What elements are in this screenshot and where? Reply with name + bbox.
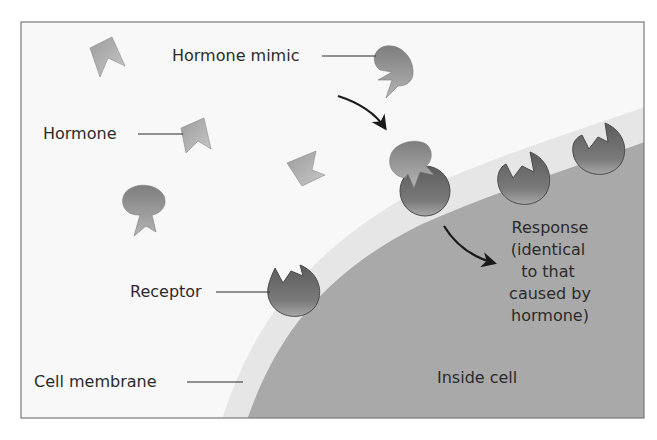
response-line: hormone) [511, 306, 589, 325]
response-line: (identical [511, 240, 586, 259]
response-line: caused by [509, 284, 591, 303]
receptor-icon [268, 265, 320, 316]
hormone-mimic-label: Hormone mimic [172, 46, 299, 65]
inside-cell-label: Inside cell [437, 368, 517, 387]
hormone-mimic-diagram: Hormone mimic Hormone Receptor Cell memb… [0, 0, 657, 440]
cell-membrane-label: Cell membrane [34, 372, 157, 391]
response-line: Response [512, 218, 589, 237]
response-line: to that [521, 262, 575, 281]
hormone-label: Hormone [43, 124, 116, 143]
receptor-label: Receptor [130, 282, 202, 301]
